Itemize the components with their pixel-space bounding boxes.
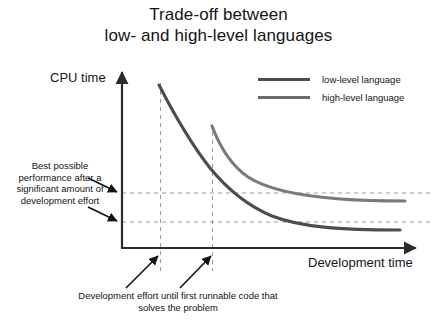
plot-canvas	[0, 0, 437, 331]
arrow-to-low-level-start	[126, 256, 158, 288]
arrow-to-high-level-start	[180, 256, 211, 288]
guide-lines	[122, 83, 430, 271]
annotation-arrows-bottom	[126, 256, 211, 288]
figure: Trade-off between low- and high-level la…	[0, 0, 437, 331]
curve-low-level-language	[159, 85, 400, 230]
curve-high-level-language	[212, 126, 405, 201]
arrow-to-high-level-asymptote	[88, 178, 117, 192]
annotation-arrows-left	[88, 178, 117, 221]
arrow-to-low-level-asymptote	[88, 207, 117, 221]
